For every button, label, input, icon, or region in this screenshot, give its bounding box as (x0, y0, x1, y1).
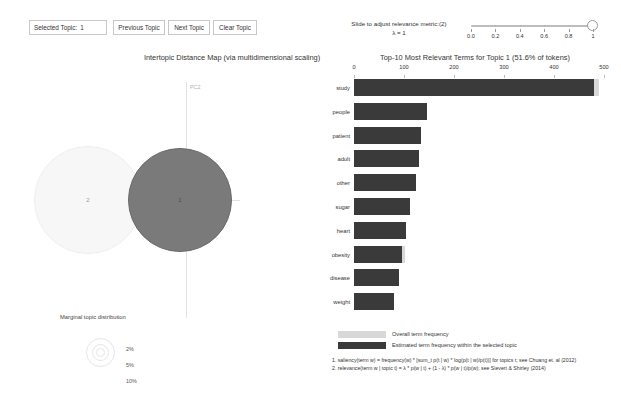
term-bar-row[interactable]: obesity (310, 245, 614, 265)
barchart-legend: Overall term frequency Estimated term fr… (338, 330, 608, 354)
barchart-footnotes: 1. saliency(term w) = frequency(w) * [su… (332, 356, 617, 372)
slider-tick-mark (593, 29, 594, 32)
marginal-topic-distribution-legend: Marginal topic distribution 2% 5% 10% (52, 314, 182, 392)
bar-topic-frequency (354, 222, 406, 239)
term-label[interactable]: study (310, 85, 350, 91)
bar-topic-frequency (354, 246, 402, 263)
lambda-slider[interactable]: 0.00.20.40.60.81 (468, 20, 600, 44)
term-bar-row[interactable]: other (310, 173, 614, 193)
term-label[interactable]: patient (310, 133, 350, 139)
next-topic-button[interactable]: Next Topic (168, 20, 210, 35)
slider-tick-mark (569, 29, 570, 32)
term-label[interactable]: weight (310, 299, 350, 305)
term-bar-row[interactable]: people (310, 102, 614, 122)
control-bar: Selected Topic: Previous Topic Next Topi… (0, 0, 621, 48)
selected-topic-input[interactable] (80, 24, 104, 31)
selected-topic-label: Selected Topic: (34, 20, 77, 35)
term-bar-row[interactable]: heart (310, 221, 614, 241)
x-axis-tick-label: 400 (549, 64, 558, 70)
term-bar-row[interactable]: weight (310, 292, 614, 312)
previous-topic-button[interactable]: Previous Topic (113, 20, 165, 35)
term-label[interactable]: other (310, 180, 350, 186)
legend-overall-label: Overall term frequency (392, 331, 449, 337)
x-axis-tick-label: 100 (399, 64, 408, 70)
top-terms-title: Top-10 Most Relevant Terms for Topic 1 (… (344, 53, 606, 62)
legend-swatch-overall (338, 331, 386, 338)
slider-tick-mark (520, 29, 521, 32)
marginal-label-5: 5% (126, 362, 134, 368)
topic-bubble-label-2: 2 (86, 197, 89, 203)
x-axis-tick-label: 0 (352, 64, 355, 70)
lambda-prompt-text: Slide to adjust relevance metric:(2) (340, 19, 458, 28)
slider-tick-label: 0.2 (492, 33, 500, 39)
lambda-prompt: Slide to adjust relevance metric:(2) λ =… (340, 19, 458, 37)
intertopic-map-title: Intertopic Distance Map (via multidimens… (88, 53, 376, 62)
legend-overall: Overall term frequency (338, 330, 449, 338)
bar-topic-frequency (354, 174, 416, 191)
x-axis-tick-label: 300 (499, 64, 508, 70)
lambda-value-label: λ = 1 (340, 28, 458, 37)
mds-axis-label-pc2: PC2 (190, 84, 201, 90)
top-terms-barchart: 0100200300400500studypeoplepatientadulto… (310, 64, 615, 322)
legend-topic: Estimated term frequency within the sele… (338, 341, 517, 349)
x-axis-tick-label: 500 (599, 64, 608, 70)
slider-tick-mark (495, 29, 496, 32)
term-label[interactable]: disease (310, 275, 350, 281)
slider-tick-label: 1 (591, 33, 594, 39)
term-bar-row[interactable]: sugar (310, 197, 614, 217)
x-axis-tick-label: 200 (449, 64, 458, 70)
intertopic-distance-map[interactable]: PC2 PC1 2 1 Marginal topic distribution … (10, 64, 310, 394)
marginal-label-2: 2% (126, 346, 134, 352)
lambda-slider-group: Slide to adjust relevance metric:(2) λ =… (340, 18, 608, 48)
bar-topic-frequency (354, 293, 394, 310)
slider-tick-label: 0.0 (467, 33, 475, 39)
footnote-2: 2. relevance(term w | topic t) = λ * p(w… (332, 364, 617, 372)
bar-topic-frequency (354, 150, 419, 167)
bar-topic-frequency (354, 79, 594, 96)
term-label[interactable]: heart (310, 228, 350, 234)
legend-topic-label: Estimated term frequency within the sele… (392, 342, 517, 348)
term-label[interactable]: people (310, 109, 350, 115)
term-bar-row[interactable]: disease (310, 268, 614, 288)
topic-controls: Selected Topic: Previous Topic Next Topi… (29, 19, 257, 36)
slider-tick-label: 0.8 (565, 33, 573, 39)
bar-topic-frequency (354, 269, 399, 286)
marginal-legend-title: Marginal topic distribution (60, 314, 126, 320)
slider-track[interactable] (471, 25, 593, 27)
slider-tick-mark (544, 29, 545, 32)
selected-topic-box[interactable]: Selected Topic: (29, 20, 107, 35)
slider-tick-label: 0.6 (540, 33, 548, 39)
term-bar-row[interactable]: adult (310, 149, 614, 169)
term-bar-row[interactable]: patient (310, 126, 614, 146)
slider-tick-mark (471, 29, 472, 32)
clear-topic-button[interactable]: Clear Topic (213, 20, 257, 35)
term-label[interactable]: obesity (310, 252, 350, 258)
topic-bubble-label-1: 1 (178, 197, 181, 203)
bar-topic-frequency (354, 198, 410, 215)
slider-tick-label: 0.4 (516, 33, 524, 39)
term-bar-row[interactable]: study (310, 78, 614, 98)
term-label[interactable]: adult (310, 156, 350, 162)
bar-topic-frequency (354, 127, 421, 144)
bar-topic-frequency (354, 103, 427, 120)
marginal-circle-2 (96, 348, 105, 357)
top-terms-barchart-panel: 0100200300400500studypeoplepatientadulto… (310, 64, 615, 394)
legend-swatch-topic (338, 342, 386, 349)
marginal-label-10: 10% (126, 378, 137, 384)
term-label[interactable]: sugar (310, 204, 350, 210)
footnote-1: 1. saliency(term w) = frequency(w) * [su… (332, 356, 617, 364)
